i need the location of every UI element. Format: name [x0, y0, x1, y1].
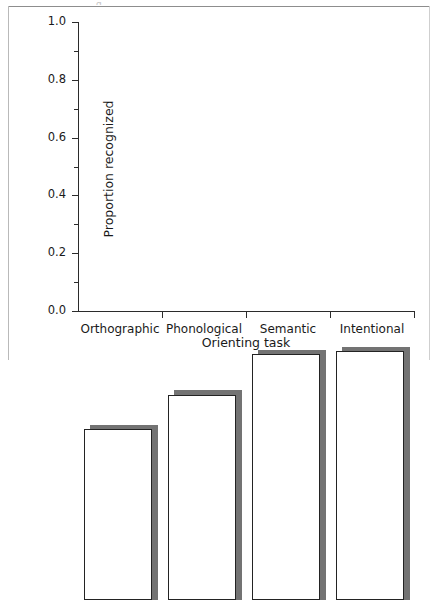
- x-tick-label: Phonological: [162, 322, 246, 336]
- y-tick-minor: [74, 282, 78, 283]
- y-axis-title: Proportion recognized: [102, 74, 116, 264]
- bar-face: [84, 429, 152, 600]
- plot-area: 0.00.20.40.60.81.0 OrthographicPhonologi…: [78, 22, 414, 311]
- y-tick-major: [72, 138, 78, 139]
- y-tick-minor: [74, 109, 78, 110]
- y-axis-line: [78, 22, 79, 312]
- x-tick: [162, 312, 163, 318]
- x-tick: [330, 312, 331, 318]
- x-tick-label: Intentional: [330, 322, 414, 336]
- x-tick: [246, 312, 247, 318]
- x-tick-label: Orthographic: [78, 322, 162, 336]
- y-tick-minor: [74, 51, 78, 52]
- y-tick-label: 0.6: [22, 132, 66, 144]
- y-tick-label: 0.8: [22, 74, 66, 86]
- y-tick-major: [72, 253, 78, 254]
- x-tick-label: Semantic: [246, 322, 330, 336]
- y-tick-label: 0.4: [22, 189, 66, 201]
- y-tick-label: 0.2: [22, 247, 66, 259]
- y-tick-label: 1.0: [22, 16, 66, 28]
- bar-face: [168, 395, 236, 600]
- y-tick-major: [72, 80, 78, 81]
- y-tick-minor: [74, 224, 78, 225]
- y-tick-major: [72, 195, 78, 196]
- y-tick-major: [72, 22, 78, 23]
- x-tick: [414, 312, 415, 318]
- bar-face: [252, 354, 320, 600]
- x-axis-title: Orienting task: [78, 336, 414, 350]
- bar-face: [336, 351, 404, 600]
- y-tick-minor: [74, 167, 78, 168]
- y-tick-label: 0.0: [22, 305, 66, 317]
- y-tick-major: [72, 311, 78, 312]
